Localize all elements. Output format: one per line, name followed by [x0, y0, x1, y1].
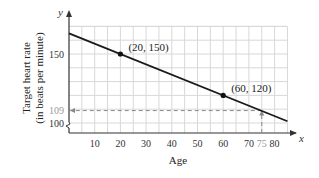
- data-point-label: (20, 150): [128, 41, 169, 54]
- y-tick-label: 100: [49, 118, 64, 129]
- x-tick-label: 50: [193, 138, 203, 149]
- x-tick-label: 40: [167, 138, 177, 149]
- x-tick-label: 20: [115, 138, 125, 149]
- x-tick-label: 30: [141, 138, 151, 149]
- dashed-guides: [69, 108, 264, 133]
- data-point: [221, 93, 226, 98]
- data-line: [69, 33, 287, 121]
- data-point-label: (60, 120): [231, 82, 272, 95]
- axis-break-icon: [66, 122, 70, 128]
- axes: [66, 10, 297, 136]
- x-tick-label: 80: [270, 138, 280, 149]
- chart: (20, 150)(60, 120) 102030405060707580100…: [0, 0, 319, 178]
- y-tick-label: 109: [49, 105, 64, 116]
- x-axis-label: Age: [169, 154, 187, 166]
- x-tick-label: 70: [244, 138, 254, 149]
- x-tick-label: 75: [257, 138, 267, 149]
- grid: [69, 26, 287, 133]
- y-axis-arrow-icon: [66, 10, 72, 17]
- y-tick-label: 150: [49, 49, 64, 60]
- x-tick-label: 60: [218, 138, 228, 149]
- x-axis-arrow-icon: [290, 130, 297, 136]
- x-tick-label: 10: [90, 138, 100, 149]
- y-axis-symbol: y: [57, 6, 63, 18]
- tick-labels: 102030405060707580100109150: [49, 49, 280, 150]
- series-line: [69, 33, 287, 121]
- data-point: [118, 51, 123, 56]
- x-axis-symbol: x: [298, 132, 304, 144]
- y-axis-label-line1: Target heart rate: [20, 42, 32, 114]
- y-axis-label-line2: (in beats per minute): [33, 32, 46, 124]
